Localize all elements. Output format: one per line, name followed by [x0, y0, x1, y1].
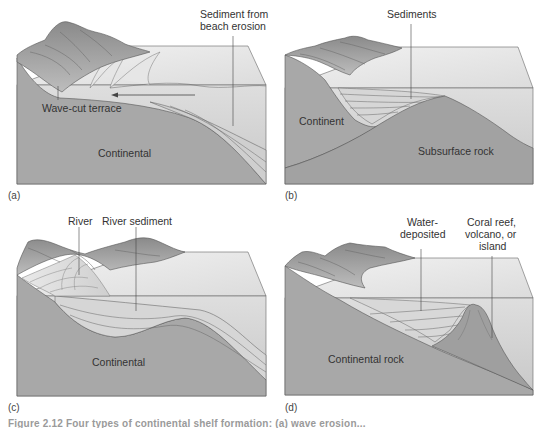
panel-b-label-sediments: Sediments: [387, 8, 437, 20]
panel-d-label-water-2: deposited: [400, 228, 446, 240]
panel-a: Sediment from beach erosion Wave-cut ter…: [8, 8, 269, 201]
panel-d-label-water-1: Water-: [407, 216, 439, 228]
panel-c-label-river: River: [68, 215, 93, 227]
panel-a-label-sediment: Sediment from: [200, 8, 269, 20]
panel-d-label-coral-1: Coral reef,: [467, 216, 516, 228]
panel-a-label-sediment-2: beach erosion: [200, 20, 266, 32]
figure-caption: Figure 2.12 Four types of continental sh…: [8, 418, 548, 428]
continental-shelf-diagram: Sediment from beach erosion Wave-cut ter…: [0, 0, 549, 428]
panel-d-label-continental-rock: Continental rock: [328, 353, 405, 365]
panel-c-label-continental: Continental: [92, 356, 145, 368]
panel-c-label-river-sediment: River sediment: [102, 215, 172, 227]
panel-b-tag: (b): [285, 190, 297, 201]
panel-d-label-coral-3: island: [479, 240, 507, 252]
panel-b: Sediments Continent Subsurface rock (b): [285, 8, 533, 201]
panel-d-tag: (d): [285, 402, 297, 413]
panel-d-label-coral-2: volcano, or: [465, 228, 517, 240]
panel-c-tag: (c): [8, 402, 20, 413]
panel-b-label-subsurface: Subsurface rock: [418, 145, 495, 157]
panel-b-label-continent: Continent: [299, 115, 344, 127]
panel-a-tag: (a): [8, 190, 20, 201]
panel-a-label-continental: Continental: [98, 147, 151, 159]
panel-d: Water- deposited Coral reef, volcano, or…: [285, 216, 533, 413]
panel-a-label-terrace: Wave-cut terrace: [42, 102, 122, 114]
panel-c: River River sediment Continental (c): [8, 215, 266, 413]
